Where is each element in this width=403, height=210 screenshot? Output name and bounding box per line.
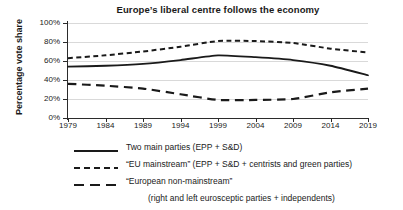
legend-item-two-main-parties: Two main parties (EPP + S&D)	[74, 142, 394, 159]
x-tick-label: 1999	[198, 121, 238, 130]
y-tick-mark	[63, 80, 68, 81]
chart-container: Europe’s liberal centre follows the econ…	[0, 0, 403, 210]
solid-line-swatch	[74, 150, 118, 152]
legend-sublabel: (right and left eurosceptic parties + in…	[148, 193, 335, 203]
y-tick-label: 100%	[26, 18, 60, 27]
y-tick-label: 20%	[26, 94, 60, 103]
legend-label: “European non-mainstream”	[126, 176, 232, 186]
y-tick-label: 40%	[26, 75, 60, 84]
legend-item-european-non-mainstream: “European non-mainstream”	[74, 176, 394, 193]
y-tick-mark	[63, 23, 68, 24]
legend-label: “EU mainstream” (EPP + S&D + centrists a…	[126, 159, 352, 169]
short-dash-line-swatch	[74, 167, 118, 169]
x-tick-label: 1989	[123, 121, 163, 130]
y-tick-mark	[63, 61, 68, 62]
legend-label: Two main parties (EPP + S&D)	[126, 142, 242, 152]
y-tick-label: 60%	[26, 56, 60, 65]
x-tick-label: 1984	[86, 121, 126, 130]
y-tick-mark	[63, 42, 68, 43]
x-tick-label: 2004	[236, 121, 276, 130]
x-tick-label: 2014	[311, 121, 351, 130]
legend-item-european-non-mainstream-sublabel: (right and left eurosceptic parties + in…	[74, 193, 394, 207]
y-tick-label: 80%	[26, 37, 60, 46]
x-tick-label: 2019	[348, 121, 388, 130]
y-tick-mark	[63, 99, 68, 100]
x-tick-label: 1979	[48, 121, 88, 130]
x-tick-label: 2009	[273, 121, 313, 130]
series-line	[68, 55, 368, 75]
legend-item-eu-mainstream: “EU mainstream” (EPP + S&D + centrists a…	[74, 159, 394, 176]
chart-legend: Two main parties (EPP + S&D) “EU mainstr…	[74, 142, 394, 207]
long-dash-line-swatch	[74, 184, 118, 186]
series-line	[68, 84, 368, 100]
x-tick-label: 1994	[161, 121, 201, 130]
